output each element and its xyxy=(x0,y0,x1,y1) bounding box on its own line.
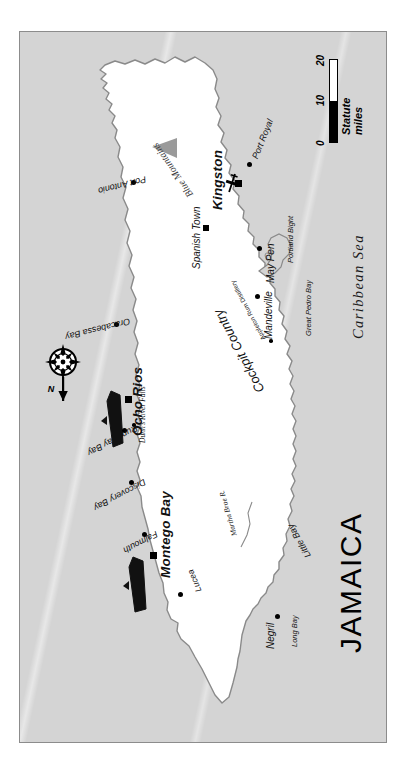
scale-tick-20: 20 xyxy=(315,55,326,66)
label-long-bay: Long Bay xyxy=(291,615,299,647)
map-frame: Kingston Montego Bay Ocho Rios Spanish T… xyxy=(19,31,387,743)
label-spanish-town: Spanish Town xyxy=(192,207,203,269)
scale-bar-fill xyxy=(330,101,337,142)
page-title: JAMAICA xyxy=(335,512,367,653)
scale-tick-10: 10 xyxy=(315,95,326,106)
label-dunns-river-falls: Dunn's River Falls xyxy=(139,401,147,443)
label-great-pedro-bay: Great Pedro Bay xyxy=(305,279,313,337)
label-long-bay-text: Long Bay xyxy=(290,615,299,647)
compass-north-label: N xyxy=(48,384,55,394)
label-kingston: Kingston xyxy=(211,150,225,210)
marker-mandeville[interactable] xyxy=(255,294,260,299)
scale-bar-track xyxy=(329,59,338,143)
marker-montego-bay[interactable] xyxy=(150,552,157,559)
label-spanish-town-text: Spanish Town xyxy=(191,207,202,269)
label-mandeville: Mandeville xyxy=(264,291,275,339)
label-great-pedro-bay-text: Great Pedro Bay xyxy=(304,280,313,336)
marker-spanish-town[interactable] xyxy=(203,226,209,232)
label-caribbean-sea: Caribbean Sea xyxy=(351,234,366,339)
marker-port-royal[interactable] xyxy=(247,162,252,167)
compass-rose-icon xyxy=(37,329,89,425)
scale-caption: Statute miles xyxy=(340,98,364,135)
marker-appleton-rum-distillery[interactable] xyxy=(269,340,273,344)
label-portland-bight: Portland Bight xyxy=(287,217,295,263)
compass-rose: N xyxy=(37,329,93,425)
label-negril: Negril xyxy=(266,623,277,649)
marker-lucea[interactable] xyxy=(178,592,183,597)
marker-kingston[interactable] xyxy=(235,180,242,187)
label-may-pen: May Pen xyxy=(266,244,277,283)
marker-may-pen[interactable] xyxy=(257,246,262,251)
label-montego-bay: Montego Bay xyxy=(159,491,173,578)
label-portland-bight-text: Portland Bight xyxy=(286,216,295,263)
rotated-map-canvas: Kingston Montego Bay Ocho Rios Spanish T… xyxy=(19,31,387,743)
marker-negril[interactable] xyxy=(275,614,280,619)
scale-tick-0: 0 xyxy=(315,140,326,146)
